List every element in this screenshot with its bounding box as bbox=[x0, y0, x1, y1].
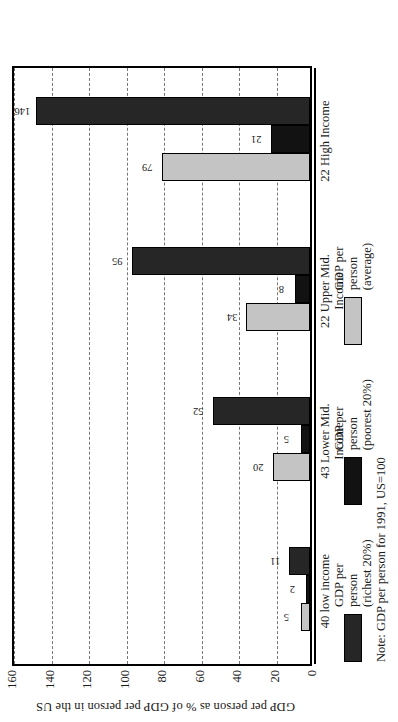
category-label: 40 low income bbox=[318, 531, 332, 651]
y-tick-label: 160 bbox=[5, 670, 20, 689]
bar-rect bbox=[273, 453, 311, 481]
y-tick-label: 20 bbox=[267, 670, 282, 683]
bar-rect bbox=[306, 575, 310, 603]
y-tick-label: 100 bbox=[117, 670, 132, 689]
y-tick-label: 80 bbox=[155, 670, 170, 683]
bar: 52 bbox=[10, 397, 310, 425]
bar: 146 bbox=[10, 97, 310, 125]
bar: 11 bbox=[10, 547, 310, 575]
bar-value-label: 79 bbox=[142, 162, 153, 173]
bar-value-label: 146 bbox=[14, 106, 30, 117]
bar: 5 bbox=[10, 603, 310, 631]
bar-value-label: 8 bbox=[278, 284, 283, 295]
bar: 79 bbox=[10, 153, 310, 181]
y-axis-label-text: GDP per person as % of GDP per person in… bbox=[36, 699, 295, 714]
bar-value-label: 20 bbox=[253, 462, 264, 473]
legend-swatch bbox=[344, 457, 362, 505]
y-tick-label: 140 bbox=[42, 670, 57, 689]
bar-rect bbox=[271, 125, 310, 153]
bar-value-label: 2 bbox=[289, 584, 294, 595]
bar-rect bbox=[246, 303, 310, 331]
bar: 21 bbox=[10, 125, 310, 153]
chart-figure: GDP per person as % of GDP per person in… bbox=[0, 0, 398, 722]
bar: 8 bbox=[10, 275, 310, 303]
bar-value-label: 95 bbox=[112, 256, 123, 267]
y-tick-label: 120 bbox=[80, 670, 95, 689]
bar-group: 7921146 bbox=[10, 64, 310, 214]
plot-area: 521120552348957921146 bbox=[12, 66, 312, 666]
bar: 34 bbox=[10, 303, 310, 331]
category-label: 22 High Income bbox=[318, 81, 332, 201]
bar-value-label: 5 bbox=[284, 612, 289, 623]
legend-label: GDP per person (poorest 20%) bbox=[332, 379, 374, 450]
bar-rect bbox=[36, 97, 310, 125]
legend-item[interactable]: GDP per person (average) bbox=[332, 243, 374, 345]
bar-rect bbox=[295, 275, 310, 303]
bar-rect bbox=[162, 153, 310, 181]
y-tick-label: 40 bbox=[230, 670, 245, 683]
bar: 95 bbox=[10, 247, 310, 275]
legend-item[interactable]: GDP per person (poorest 20%) bbox=[332, 379, 374, 505]
rotated-figure-wrapper: GDP per person as % of GDP per person in… bbox=[0, 0, 398, 722]
legend-swatch bbox=[344, 614, 362, 662]
legend-item[interactable]: GDP per person (richest 20%) bbox=[332, 539, 374, 662]
bar-value-label: 5 bbox=[284, 434, 289, 445]
bar-rect bbox=[289, 547, 310, 575]
axis-baseline bbox=[314, 68, 316, 664]
bar-rect bbox=[301, 425, 310, 453]
y-axis-label: GDP per person as % of GDP per person in… bbox=[0, 696, 330, 718]
bar-rect bbox=[301, 603, 310, 631]
plot-inner: 521120552348957921146 bbox=[14, 68, 310, 664]
bar-value-label: 52 bbox=[193, 406, 204, 417]
y-axis-tick-labels: 160140120100806040200 bbox=[12, 668, 312, 698]
y-tick-label: 0 bbox=[305, 670, 320, 676]
chart-note: Note: GDP per person for 1991, US=100 bbox=[374, 457, 389, 662]
bar-rect bbox=[132, 247, 310, 275]
bar-group: 5211 bbox=[10, 514, 310, 664]
bar: 20 bbox=[10, 453, 310, 481]
legend-swatch bbox=[344, 297, 362, 345]
bar-value-label: 34 bbox=[227, 312, 238, 323]
bar: 5 bbox=[10, 425, 310, 453]
bar-group: 34895 bbox=[10, 214, 310, 364]
legend-label: GDP per person (average) bbox=[332, 243, 374, 290]
bar-value-label: 21 bbox=[251, 134, 262, 145]
bar-group: 20552 bbox=[10, 364, 310, 514]
bar-value-label: 11 bbox=[270, 556, 280, 567]
legend-label: GDP per person (richest 20%) bbox=[332, 539, 374, 607]
y-tick-label: 60 bbox=[192, 670, 207, 683]
bar: 2 bbox=[10, 575, 310, 603]
bar-rect bbox=[213, 397, 311, 425]
